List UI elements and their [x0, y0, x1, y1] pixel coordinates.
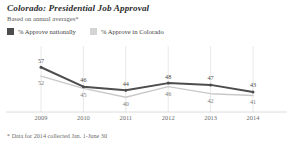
legend-swatch-nationally-icon [7, 28, 14, 35]
data-label: 52 [38, 79, 44, 86]
series-line-nationally [40, 66, 255, 94]
data-label: 47 [208, 74, 214, 81]
data-line [41, 67, 253, 92]
data-point [82, 85, 85, 88]
data-label: 48 [165, 73, 171, 80]
chart-legend: % Approve nationally % Approve in Colora… [7, 28, 164, 35]
chart-plot-area: 524540464241 574644484743 [0, 40, 293, 115]
data-point [252, 90, 255, 93]
data-label: 46 [80, 76, 86, 83]
data-point [167, 82, 170, 85]
x-axis-tick-label: 2014 [247, 114, 260, 121]
chart-gridlines [41, 46, 253, 112]
legend-item-colorado[interactable]: % Approve in Colorado [90, 28, 164, 35]
x-axis-tick-label: 2012 [162, 114, 175, 121]
data-point [40, 66, 43, 69]
x-axis-tick-label: 2010 [77, 114, 90, 121]
data-point [209, 83, 212, 86]
legend-swatch-colorado-icon [90, 28, 97, 35]
data-label: 42 [208, 97, 214, 104]
data-label: 41 [250, 98, 256, 105]
legend-label-colorado: % Approve in Colorado [101, 28, 164, 35]
legend-label-nationally: % Approve nationally [18, 28, 76, 35]
data-label: 57 [38, 57, 44, 64]
series-labels-nationally: 574644484743 [38, 57, 256, 89]
data-label: 44 [123, 80, 129, 87]
data-label: 45 [80, 91, 86, 98]
data-label: 46 [165, 90, 171, 97]
x-axis-tick-label: 2009 [35, 114, 48, 121]
legend-item-nationally[interactable]: % Approve nationally [7, 28, 76, 35]
chart-card: Colorado: Presidential Job Approval Base… [0, 0, 293, 153]
x-axis: 200920102011201220132014 [0, 112, 293, 126]
chart-footnote: * Data for 2014 collected Jan. 1-June 30 [7, 132, 107, 139]
data-label: 43 [250, 81, 256, 88]
data-point [124, 89, 127, 92]
data-label: 40 [123, 100, 129, 107]
x-axis-tick-label: 2013 [204, 114, 217, 121]
chart-subtitle: Based on annual averages* [7, 15, 79, 22]
series-labels-colorado: 524540464241 [38, 79, 256, 107]
x-axis-tick-label: 2011 [120, 114, 133, 121]
page-title: Colorado: Presidential Job Approval [7, 3, 149, 13]
